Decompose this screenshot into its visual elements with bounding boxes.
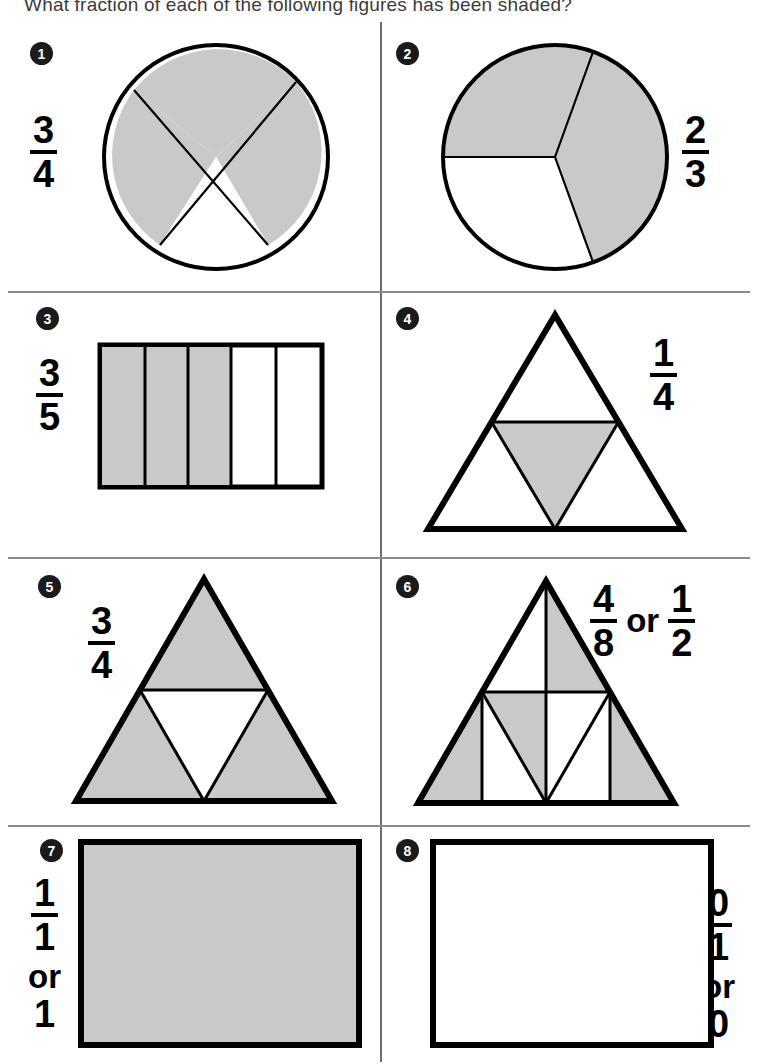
fraction-numerator: 3 xyxy=(30,112,57,148)
figure-cell-5: 5 3 4 xyxy=(0,559,380,824)
figure-cell-6: 6 4 8 or 1 2 xyxy=(382,559,758,824)
figure-diagram-3 xyxy=(96,341,336,511)
figure-cell-3: 3 3 5 xyxy=(0,293,380,556)
fraction-numerator: 2 xyxy=(682,112,709,148)
figure-diagram-4 xyxy=(420,307,690,537)
worksheet-page: What fraction of each of the following f… xyxy=(0,0,758,1064)
figure-fraction-7: 1 1 or 1 xyxy=(28,875,61,1033)
figure-number-8: 8 xyxy=(396,839,419,862)
figure-cell-2: 2 2 3 xyxy=(382,24,758,290)
figure-number-1: 1 xyxy=(30,42,53,65)
figure-diagram-7 xyxy=(76,837,366,1052)
figure-number-5: 5 xyxy=(38,575,61,598)
fraction-denominator: 4 xyxy=(30,156,57,192)
page-title: What fraction of each of the following f… xyxy=(24,0,744,16)
fraction-denominator: 5 xyxy=(36,399,63,435)
figure-cell-7: 7 1 1 or 1 xyxy=(0,827,380,1064)
figure-diagram-6 xyxy=(410,573,690,813)
fraction-denominator: 1 xyxy=(31,919,58,955)
figure-fraction-1: 3 4 xyxy=(30,112,57,193)
figure-fraction-2: 2 3 xyxy=(682,112,709,193)
figure-diagram-5 xyxy=(68,571,348,811)
figure-number-2: 2 xyxy=(396,42,419,65)
fraction-numerator: 3 xyxy=(36,355,63,391)
fraction-numerator: 1 xyxy=(31,875,58,911)
figure-number-3: 3 xyxy=(36,307,59,330)
figure-number-7: 7 xyxy=(40,839,63,862)
fraction-or-text: or xyxy=(28,960,61,993)
figure-number-4: 4 xyxy=(396,307,419,330)
fraction-primary: 1 1 xyxy=(31,875,58,956)
fraction-whole-value: 1 xyxy=(34,995,55,1033)
figure-diagram-1 xyxy=(88,32,348,282)
figure-diagram-2 xyxy=(430,32,680,282)
figure-cell-4: 4 1 4 xyxy=(382,293,758,556)
figure-cell-1: 1 3 4 xyxy=(0,24,380,290)
fraction-denominator: 3 xyxy=(682,156,709,192)
figure-diagram-8 xyxy=(428,837,718,1052)
figure-fraction-3: 3 5 xyxy=(36,355,63,436)
figure-cell-8: 8 0 1 or 0 xyxy=(382,827,758,1064)
